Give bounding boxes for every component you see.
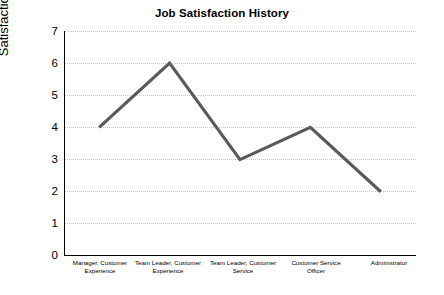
y-tick-7: 7 [28, 25, 58, 37]
gridline-1 [65, 223, 416, 224]
x-tick-1: Team Leader, Customer Experience [126, 259, 210, 276]
y-tick-0: 0 [28, 249, 58, 261]
gridline-4 [65, 127, 416, 128]
x-tick-3-line2: Officer [278, 267, 354, 275]
x-tick-3: Customer Service Officer [278, 259, 354, 276]
x-tick-4-line1: Administrator [353, 259, 425, 267]
y-axis-label: Satisfaction Rating [0, 0, 11, 72]
x-tick-4: Administrator [353, 259, 425, 267]
y-tick-2: 2 [28, 185, 58, 197]
y-tick-6: 6 [28, 57, 58, 69]
y-tick-4: 4 [28, 121, 58, 133]
gridline-5 [65, 95, 416, 96]
y-tick-3: 3 [28, 153, 58, 165]
gridline-2 [65, 191, 416, 192]
y-tick-1: 1 [28, 217, 58, 229]
x-tick-2: Team Leader, Customer Service [201, 259, 285, 276]
gridline-6 [65, 63, 416, 64]
x-tick-3-line1: Customer Service [278, 259, 354, 267]
x-tick-2-line2: Service [201, 267, 285, 275]
y-tick-5: 5 [28, 89, 58, 101]
x-tick-1-line1: Team Leader, Customer [126, 259, 210, 267]
chart-container: Job Satisfaction History Satisfaction Ra… [0, 0, 444, 295]
x-tick-2-line1: Team Leader, Customer [201, 259, 285, 267]
x-tick-1-line2: Experience [126, 267, 210, 275]
plot-area [64, 31, 416, 256]
gridline-7 [65, 31, 416, 32]
chart-title: Job Satisfaction History [0, 7, 444, 19]
gridline-3 [65, 159, 416, 160]
